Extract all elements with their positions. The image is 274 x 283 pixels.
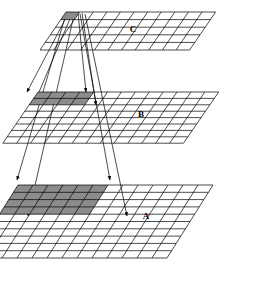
grid-line-vertical <box>176 12 202 50</box>
grid-line-vertical <box>190 12 216 50</box>
plane-label-c: C <box>130 24 137 34</box>
grid-line-vertical <box>149 12 175 50</box>
grid-line-vertical <box>94 12 120 50</box>
receptive-field-diagram: CBA <box>0 0 274 283</box>
grid-plane-c <box>40 12 216 50</box>
grid-plane-a <box>0 185 213 258</box>
diagram-canvas: CBA <box>0 0 274 283</box>
planes-group <box>0 12 219 258</box>
projection-line <box>27 14 68 92</box>
plane-labels-group: CBA <box>130 24 150 221</box>
grid-line-vertical <box>135 12 161 50</box>
grid-line-vertical <box>40 12 66 50</box>
plane-label-a: A <box>143 211 150 221</box>
grid-plane-b <box>3 92 219 143</box>
plane-label-b: B <box>138 109 144 119</box>
grid-line-vertical <box>162 12 188 50</box>
